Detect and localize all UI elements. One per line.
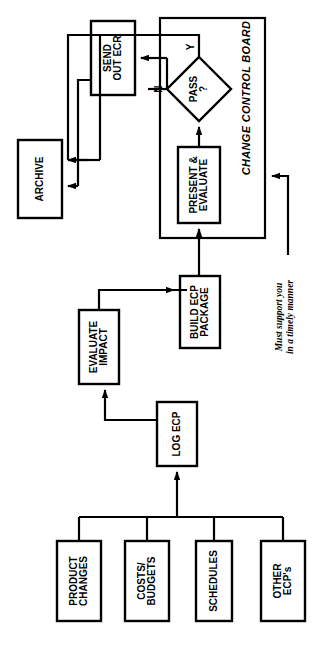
flowchart-diagram: ARCHIVE --> SEND OUT ECR --> SEND OUT EC… xyxy=(0,0,327,649)
node-evaluate-impact xyxy=(79,310,119,384)
flowchart-canvas: ARCHIVE --> SEND OUT ECR --> xyxy=(0,0,327,649)
node-schedules xyxy=(196,541,232,621)
node-log-ecp xyxy=(157,402,197,466)
edge-log-ecp-to-evaluate-impact xyxy=(105,390,157,420)
node-product-changes xyxy=(57,541,101,621)
node-archive xyxy=(18,140,62,218)
node-costs-budgets xyxy=(125,541,169,621)
node-other-ecps xyxy=(261,541,305,621)
node-build-ecp-package xyxy=(180,276,220,348)
node-present-evaluate xyxy=(178,147,220,223)
edge-send-out-ecr-to-archive xyxy=(78,80,91,186)
node-pass-decision xyxy=(167,57,231,121)
node-send-out-ecr xyxy=(91,21,135,95)
edge-note-to-change-control-board xyxy=(272,176,288,255)
edge-evaluate-impact-to-build-ecp xyxy=(99,290,187,310)
